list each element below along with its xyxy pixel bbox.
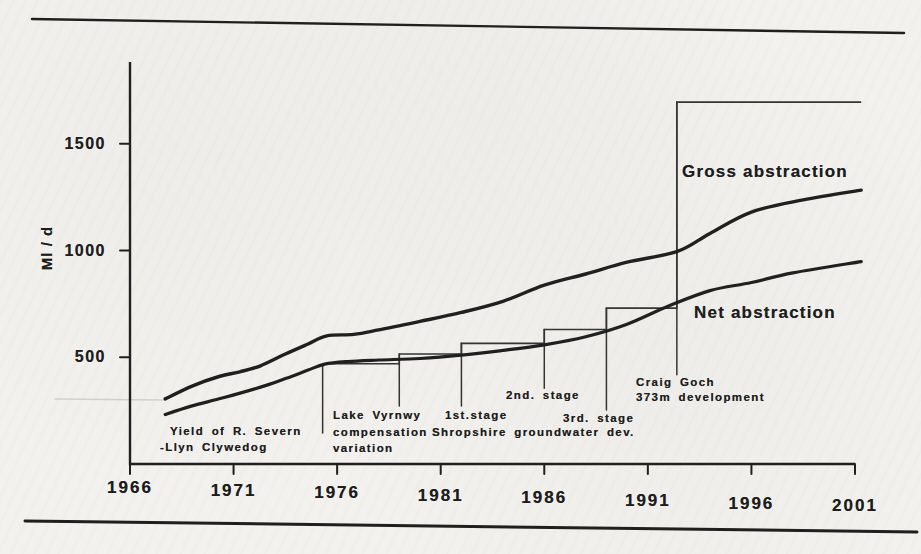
x-tick-label-1991: 1991 — [625, 492, 671, 509]
annotation-shropshire-1st-stage-line2: Shropshire groundwater dev. — [432, 427, 635, 439]
x-tick-label-1996: 1996 — [728, 495, 774, 512]
y-axis-unit-label: Ml / d — [39, 226, 54, 270]
annotation-lake-vyrnwy-compensation-line3: variation — [333, 443, 394, 455]
x-tick-label-1981: 1981 — [418, 487, 464, 504]
y-tick-label-1000: 1000 — [64, 243, 106, 259]
annotation-yield-severn-clywedog-line1: Yield of R. Severn — [170, 426, 302, 438]
annotation-lake-vyrnwy-compensation-line1: Lake Vyrnwy — [333, 410, 421, 422]
x-tick-label-1986: 1986 — [521, 489, 567, 506]
abstraction-chart-svg — [0, 0, 921, 554]
scanned-figure-page: Ml / d Gross abstraction Net abstraction… — [0, 0, 921, 554]
axes — [130, 62, 855, 464]
page-top-rule — [32, 19, 904, 33]
y-tick-label-500: 500 — [75, 349, 106, 365]
gross-abstraction-curve — [165, 190, 861, 399]
scan-artifact-line — [55, 399, 163, 400]
annotation-craig-goch-line2: 373m development — [636, 392, 765, 404]
net-abstraction-label: Net abstraction — [694, 304, 836, 321]
annotation-shropshire-1st-stage-line1: 1st.stage — [445, 410, 507, 422]
x-tick-label-1976: 1976 — [314, 484, 360, 501]
x-tick-label-1971: 1971 — [211, 482, 257, 499]
annotation-yield-severn-clywedog-line2: -Llyn Clywedog — [160, 442, 268, 454]
gross-abstraction-label: Gross abstraction — [682, 163, 848, 180]
y-tick-label-1500: 1500 — [64, 136, 106, 152]
annotation-craig-goch-line1: Craig Goch — [636, 377, 715, 389]
annotation-lake-vyrnwy-compensation-line2: compensation — [333, 427, 428, 439]
x-tick-label-2001: 2001 — [832, 497, 878, 514]
annotation-shropshire-3rd-stage-line1: 3rd. stage — [563, 413, 634, 425]
x-tick-label-1966: 1966 — [107, 479, 153, 496]
annotation-shropshire-2nd-stage-line1: 2nd. stage — [506, 390, 580, 402]
page-bottom-rule — [25, 521, 917, 532]
